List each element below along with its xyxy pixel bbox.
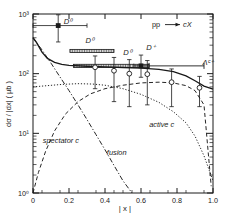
y-axis-label: dσ / |dx| ( μb ): [4, 81, 13, 127]
marker-open-circle: [112, 68, 117, 73]
active-c-label: active c: [149, 120, 174, 129]
y-tick-label: 10²: [19, 69, 30, 78]
d0-label-lowx: D⁰: [64, 17, 73, 26]
curve-total: [33, 38, 213, 89]
d0-label-mid: D⁰: [123, 48, 132, 57]
x-tick-label: 0: [31, 196, 35, 205]
y-tick-label: 10⁰: [18, 189, 29, 198]
x-tick-label: 0.2: [64, 196, 74, 205]
dplus-label: D⁺: [146, 43, 156, 52]
y-axis-ticks: [33, 14, 213, 193]
model-curves: [33, 38, 213, 193]
y-axis-tick-labels: 10⁰10¹10²10³: [18, 10, 30, 198]
marker-open-circle: [145, 72, 150, 77]
reaction-label: pp: [152, 20, 160, 29]
fusion-label: fusion: [107, 148, 127, 157]
open-circle-6: [197, 76, 202, 106]
y-tick-label: 10¹: [19, 129, 30, 138]
d0-band-label: D⁰: [85, 36, 94, 45]
measurement-bands: [70, 49, 149, 67]
marker-filled-square: [139, 63, 144, 68]
measurement-brackets: [149, 63, 204, 69]
curve-fusion: [33, 38, 132, 193]
arrow-head-icon: [176, 23, 181, 27]
open-circle-5: [169, 69, 174, 107]
x-tick-label: 0.4: [100, 196, 110, 205]
curve-labels: spectator cfusionactive c: [43, 120, 175, 157]
x-axis-label: | x |: [119, 204, 131, 213]
x-tick-label: 0.8: [172, 196, 182, 205]
reaction-product-label: cX: [183, 20, 193, 29]
D0-filled-low-x: [33, 15, 87, 42]
x-tick-label: 1.0: [208, 196, 218, 205]
lambda-c-label: Λᶜ⁺: [202, 58, 216, 67]
cross-section-plot: 10⁰10¹10²10³ 00.20.40.60.81.0 spectator …: [0, 0, 227, 216]
band-outline: [70, 49, 114, 52]
x-tick-label: 0.6: [136, 196, 146, 205]
marker-filled-square: [56, 23, 61, 28]
marker-open-circle: [169, 80, 174, 85]
point-labels: D⁰D⁰D⁰D⁺Λᶜ⁺: [64, 17, 216, 67]
y-tick-label: 10³: [19, 10, 30, 19]
curve-active-c: [33, 84, 213, 181]
plot-frame: [33, 14, 213, 193]
reaction-annotation: pp cX: [152, 20, 193, 29]
marker-open-circle: [127, 71, 132, 76]
spectator-c-label: spectator c: [43, 136, 79, 145]
x-axis-ticks: [33, 14, 213, 193]
marker-open-circle: [197, 85, 202, 90]
open-circle-3: [127, 60, 132, 107]
marker-open-circle: [93, 65, 98, 70]
figure-container: 10⁰10¹10²10³ 00.20.40.60.81.0 spectator …: [0, 0, 227, 216]
data-points: [33, 15, 202, 107]
